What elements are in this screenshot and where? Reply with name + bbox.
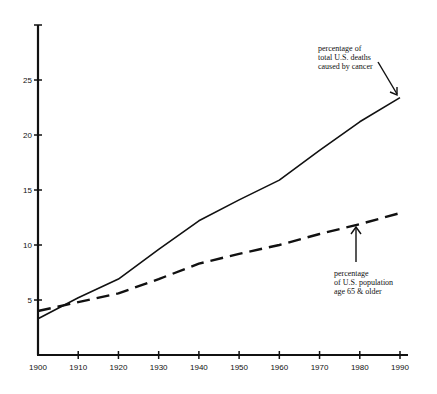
x-tick-label: 1990 <box>391 363 409 372</box>
x-tick-label: 1960 <box>270 363 288 372</box>
x-tick-label: 1950 <box>230 363 248 372</box>
population-annotation-line-1: percentage <box>334 269 369 278</box>
x-tick-label: 1970 <box>311 363 329 372</box>
y-tick-label: 5 <box>28 296 33 305</box>
annotations: percentage of total U.S. deaths caused b… <box>318 44 397 296</box>
y-tick-label: 20 <box>23 131 32 140</box>
x-tick-label: 1980 <box>351 363 369 372</box>
axes <box>34 25 408 355</box>
cancer-annotation-line-3: caused by cancer <box>318 62 373 71</box>
population-annotation-line-3: age 65 & older <box>334 287 382 296</box>
y-tick-label: 25 <box>23 76 32 85</box>
y-tick-label: 10 <box>23 241 32 250</box>
x-tick-label: 1920 <box>110 363 128 372</box>
population-arrow-icon <box>351 227 361 262</box>
x-tick-label: 1910 <box>69 363 87 372</box>
cancer-annotation-line-2: total U.S. deaths <box>318 53 371 62</box>
line-chart: 510152025 190019101920193019401950196019… <box>0 0 437 394</box>
series-population-65-older <box>38 213 400 311</box>
y-tick-label: 15 <box>23 186 32 195</box>
x-tick-label: 1940 <box>190 363 208 372</box>
cancer-arrow-icon <box>378 62 397 95</box>
cancer-annotation-line-1: percentage of <box>318 44 362 53</box>
x-tick-label: 1900 <box>29 363 47 372</box>
population-annotation-line-2: of U.S. population <box>334 278 393 287</box>
y-ticks: 510152025 <box>23 76 42 305</box>
x-tick-label: 1930 <box>150 363 168 372</box>
